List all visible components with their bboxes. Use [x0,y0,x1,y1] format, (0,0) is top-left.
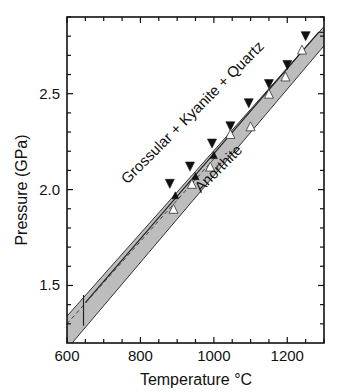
x-tick-label: 800 [128,347,153,364]
x-tick-label: 1000 [197,347,230,364]
reaction-boundary-line [85,32,318,302]
chart: 600800100012001.52.02.5 Temperature °C P… [0,0,340,392]
filled-down-triangle-marker [208,139,217,148]
y-tick-label: 1.5 [39,276,60,293]
y-tick-label: 2.5 [39,85,60,102]
band-lower-edge [72,46,324,343]
x-axis-title: Temperature °C [140,371,252,388]
filled-down-triangle-marker [244,99,253,108]
y-tick-label: 2.0 [39,181,60,198]
x-tick-label: 1200 [271,347,304,364]
x-tick-label: 600 [54,347,79,364]
filled-down-triangle-marker [165,179,174,188]
filled-down-triangle-marker [185,162,194,171]
y-axis-title: Pressure (GPa) [13,134,30,245]
filled-down-triangle-marker [301,32,310,41]
